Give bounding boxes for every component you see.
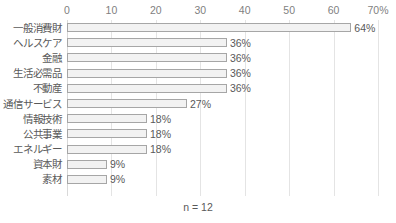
- category-label: 一般消費財: [0, 22, 62, 34]
- bar-zone: 9%: [67, 172, 396, 187]
- bar-value-label: 36%: [230, 52, 251, 64]
- bar-row: 一般消費財64%: [0, 20, 396, 35]
- chart-rows: 一般消費財64%ヘルスケア36%金融36%生活必需品36%不動産36%通信サービ…: [0, 20, 396, 187]
- category-label: 金融: [0, 52, 62, 64]
- bar-row: 通信サービス27%: [0, 96, 396, 111]
- bar[interactable]: [67, 114, 147, 123]
- category-label: エネルギー: [0, 143, 62, 155]
- bar-row: 公共事業18%: [0, 126, 396, 141]
- x-tick-label: 30: [194, 4, 206, 17]
- x-tick-label: 50: [283, 4, 295, 17]
- category-label: ヘルスケア: [0, 37, 62, 49]
- bar-value-label: 9%: [110, 173, 125, 185]
- bar-row: ヘルスケア36%: [0, 35, 396, 50]
- category-label: 通信サービス: [0, 98, 62, 110]
- category-label: 公共事業: [0, 128, 62, 140]
- x-tick-label: 60: [328, 4, 340, 17]
- bar[interactable]: [67, 53, 227, 62]
- bar-row: 素材9%: [0, 172, 396, 187]
- x-tick-label: 10: [106, 4, 118, 17]
- bar-row: エネルギー18%: [0, 142, 396, 157]
- category-label: 不動産: [0, 82, 62, 94]
- bar-row: 情報技術18%: [0, 111, 396, 126]
- bar-zone: 18%: [67, 142, 396, 157]
- bar[interactable]: [67, 99, 187, 108]
- bar-zone: 27%: [67, 96, 396, 111]
- x-tick-label: 70%: [367, 4, 388, 17]
- bar-value-label: 36%: [230, 67, 251, 79]
- bar-value-label: 36%: [230, 82, 251, 94]
- bar[interactable]: [67, 23, 351, 32]
- bar[interactable]: [67, 175, 107, 184]
- bar-value-label: 27%: [190, 98, 211, 110]
- sample-size-annotation: n = 12: [0, 200, 396, 214]
- bar-row: 資本財9%: [0, 157, 396, 172]
- bar-value-label: 18%: [150, 143, 171, 155]
- bar-value-label: 18%: [150, 113, 171, 125]
- x-tick-label: 20: [150, 4, 162, 17]
- bar-value-label: 9%: [110, 158, 125, 170]
- bar-zone: 18%: [67, 126, 396, 141]
- x-tick-label: 40: [239, 4, 251, 17]
- bar-zone: 36%: [67, 66, 396, 81]
- bar-row: 生活必需品36%: [0, 66, 396, 81]
- bar[interactable]: [67, 160, 107, 169]
- bar[interactable]: [67, 129, 147, 138]
- bar-zone: 64%: [67, 20, 396, 35]
- bar-zone: 36%: [67, 81, 396, 96]
- bar[interactable]: [67, 38, 227, 47]
- bar-value-label: 36%: [230, 37, 251, 49]
- category-label: 生活必需品: [0, 67, 62, 79]
- bar-value-label: 64%: [354, 22, 375, 34]
- category-label: 情報技術: [0, 113, 62, 125]
- bar-zone: 18%: [67, 111, 396, 126]
- bar-zone: 36%: [67, 35, 396, 50]
- bar-row: 不動産36%: [0, 81, 396, 96]
- category-label: 資本財: [0, 158, 62, 170]
- bar-zone: 9%: [67, 157, 396, 172]
- bar[interactable]: [67, 84, 227, 93]
- bar-value-label: 18%: [150, 128, 171, 140]
- x-tick-label: 0: [64, 4, 70, 17]
- x-axis-tick-labels: 010203040506070%: [0, 4, 396, 20]
- bar-zone: 36%: [67, 50, 396, 65]
- bar-row: 金融36%: [0, 50, 396, 65]
- bar[interactable]: [67, 145, 147, 154]
- bar-chart: 010203040506070% 一般消費財64%ヘルスケア36%金融36%生活…: [0, 0, 396, 223]
- bar[interactable]: [67, 69, 227, 78]
- category-label: 素材: [0, 173, 62, 185]
